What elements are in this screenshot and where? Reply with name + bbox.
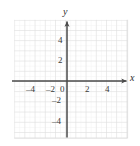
y-tick-label-pos2: 2 xyxy=(58,56,63,65)
x-tick-label-zero: 0 xyxy=(60,85,65,94)
x-tick-label-neg2: –2 xyxy=(46,85,55,94)
y-axis-label: y xyxy=(63,7,67,17)
x-tick-label-pos2: 2 xyxy=(85,85,90,94)
coordinate-grid-figure: x y –4 –2 0 2 4 4 2 –2 –4 xyxy=(0,0,140,146)
y-tick-label-neg4: –4 xyxy=(52,117,61,126)
x-tick-label-neg4: –4 xyxy=(26,85,35,94)
y-tick-label-pos4: 4 xyxy=(58,36,63,45)
y-tick-label-neg2: –2 xyxy=(52,96,61,105)
x-tick-label-pos4: 4 xyxy=(105,85,110,94)
coordinate-plane-svg xyxy=(0,0,140,146)
grid-major-lines xyxy=(14,20,127,138)
x-axis-label: x xyxy=(130,73,134,83)
